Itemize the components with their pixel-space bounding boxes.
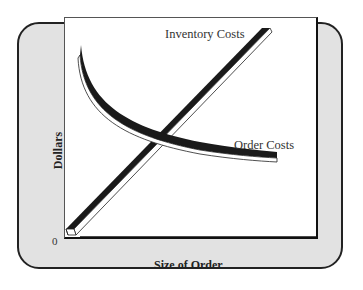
order-costs-label: Order Costs (234, 138, 294, 153)
x-axis-title: Size of Order (154, 258, 223, 273)
y-axis-title: Dollars (51, 126, 66, 176)
inventory-costs-label: Inventory Costs (165, 27, 245, 42)
origin-label: 0 (52, 235, 58, 247)
inventory-costs-line (66, 28, 272, 235)
